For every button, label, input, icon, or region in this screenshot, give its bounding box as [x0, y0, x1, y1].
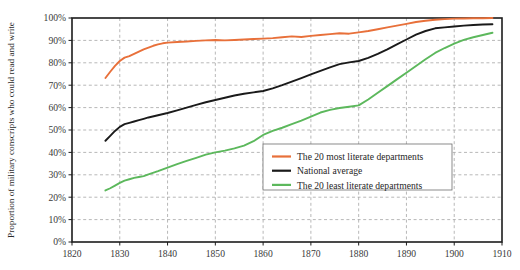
- legend-label-2: The 20 least literate departments: [297, 180, 422, 191]
- y-tick-label: 40%: [48, 147, 66, 158]
- y-tick-label: 80%: [48, 57, 66, 68]
- x-tick-label: 1840: [158, 248, 177, 259]
- series-line-1: [105, 24, 492, 140]
- legend-label-1: National average: [297, 165, 362, 176]
- legend-label-0: The 20 most literate departments: [297, 151, 424, 162]
- chart-canvas: 0%10%20%30%40%50%60%70%80%90%100%1820183…: [0, 0, 520, 270]
- y-tick-label: 100%: [44, 12, 66, 23]
- x-axis: 1820183018401850186018701880189019001910: [62, 242, 511, 259]
- x-tick-label: 1820: [62, 248, 81, 259]
- y-tick-label: 60%: [48, 102, 66, 113]
- y-tick-label: 10%: [48, 214, 66, 225]
- legend: The 20 most literate departmentsNational…: [263, 144, 452, 191]
- y-tick-label: 30%: [48, 169, 66, 180]
- y-axis: 0%10%20%30%40%50%60%70%80%90%100%: [44, 12, 72, 247]
- literacy-line-chart: 0%10%20%30%40%50%60%70%80%90%100%1820183…: [0, 0, 520, 270]
- x-tick-label: 1880: [349, 248, 368, 259]
- y-tick-label: 90%: [48, 35, 66, 46]
- x-tick-label: 1860: [254, 248, 273, 259]
- x-tick-label: 1850: [206, 248, 225, 259]
- x-tick-label: 1910: [492, 248, 511, 259]
- series-line-0: [105, 18, 492, 78]
- y-tick-label: 20%: [48, 192, 66, 203]
- y-axis-title: Proportion of military conscripts who co…: [6, 22, 16, 238]
- y-tick-label: 0%: [53, 236, 66, 247]
- x-tick-label: 1870: [301, 248, 320, 259]
- x-tick-label: 1890: [397, 248, 416, 259]
- x-tick-label: 1900: [445, 248, 464, 259]
- y-tick-label: 70%: [48, 80, 66, 91]
- y-tick-label: 50%: [48, 124, 66, 135]
- x-tick-label: 1830: [110, 248, 129, 259]
